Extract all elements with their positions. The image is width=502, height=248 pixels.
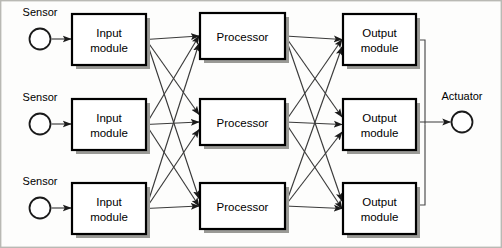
processor-2-label: Processor [217,117,269,129]
output-module-1-label-line1: Output [362,27,397,39]
mesh-input-processor-input-module-3-to-processor-1 [146,44,199,209]
input-module-1-label-line2: module [90,42,128,54]
mesh-processor-output-processor-3-to-output-module-3 [285,206,342,209]
mesh-processor-output-processor-1-to-output-module-3 [285,36,342,201]
mesh-input-processor-input-module-1-to-processor-1 [146,36,199,40]
mesh-processor-output-processor-2-to-output-module-2 [285,122,342,125]
input-module-3-label-line2: module [90,211,128,223]
output-module-3-label-line2: module [361,211,399,223]
mesh-input-processor-input-module-2-to-processor-3 [146,125,199,207]
input-module-2-label-line2: module [90,127,128,139]
block-diagram: InputmoduleInputmoduleInputmoduleProcess… [0,0,502,248]
mesh-input-processor-input-module-3-to-processor-3 [146,206,199,209]
output-module-2[interactable] [343,99,416,150]
mesh-processor-output-processor-3-to-output-module-1 [285,47,342,206]
sensor-3-label: Sensor [23,175,58,187]
diagram-canvas: InputmoduleInputmoduleInputmoduleProcess… [0,0,502,248]
input-module-2-label-line1: Input [96,112,122,124]
mesh-processor-output-processor-1-to-output-module-2 [285,36,342,117]
processor-1-label: Processor [217,31,269,43]
output-module-1[interactable] [343,14,416,65]
mesh-processor-output-processor-2-to-output-module-1 [285,40,342,123]
sensor-3[interactable] [30,198,51,219]
output-module-1-label-line2: module [361,42,399,54]
actuator-1-label: Actuator [442,90,483,102]
output-module-2-label-line1: Output [362,112,397,124]
input-module-3-label-line1: Input [96,196,122,208]
output-module-3-label-line1: Output [362,196,397,208]
sensor-2[interactable] [30,114,51,135]
block-boxes-layer: InputmoduleInputmoduleInputmoduleProcess… [72,13,420,238]
actuator-1[interactable] [452,112,473,133]
mesh-input-processor-input-module-1-to-processor-2 [146,40,199,115]
input-module-1[interactable] [72,14,146,65]
mesh-input-processor-input-module-2-to-processor-1 [146,36,199,125]
mesh-processor-output-processor-1-to-output-module-1 [285,36,342,40]
input-module-2[interactable] [72,99,146,150]
sensor-2-label: Sensor [23,91,58,103]
mesh-input-processor-input-module-3-to-processor-2 [146,130,199,209]
output-module-3[interactable] [343,183,416,234]
sensor-1-label: Sensor [23,6,58,18]
input-module-1-label-line1: Input [96,27,122,39]
output-module-2-label-line2: module [361,127,399,139]
processor-3-label: Processor [217,201,269,213]
input-module-3[interactable] [72,183,146,234]
mesh-input-processor-input-module-1-to-processor-3 [146,40,199,199]
sensor-1[interactable] [30,29,51,50]
